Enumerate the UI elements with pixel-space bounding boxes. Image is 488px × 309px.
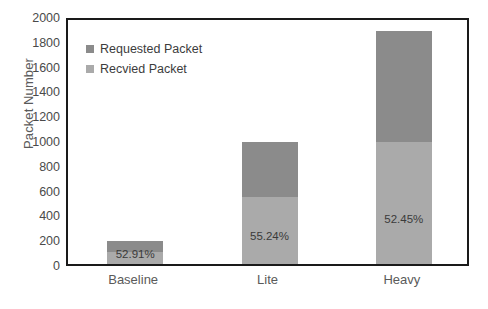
y-axis-tick-label: 600 [18, 185, 60, 199]
y-axis-tick-label: 1000 [18, 135, 60, 149]
y-axis-tick-label: 1800 [18, 36, 60, 50]
bar-data-label: 52.45% [376, 213, 432, 225]
bar-data-label: 52.91% [107, 248, 163, 260]
y-axis-tick-label: 800 [18, 160, 60, 174]
x-axis-labels: BaselineLiteHeavy [66, 272, 469, 296]
x-axis-label: Lite [257, 272, 278, 287]
y-axis-tick-label: 1400 [18, 85, 60, 99]
y-axis-ticks: 2000180016001400120010008006004002000 [18, 18, 60, 266]
bar-segment-received[interactable] [376, 142, 432, 264]
bars-layer: 52.91%55.24%52.45% [68, 20, 467, 264]
bar-group[interactable]: 52.45% [376, 31, 432, 264]
x-axis-label: Heavy [383, 272, 420, 287]
stacked-bar-chart: Packet Number 20001800160014001200100080… [0, 0, 488, 309]
plot-area: Requested PacketRecvied Packet 52.91%55.… [66, 18, 469, 266]
bar-group[interactable]: 55.24% [242, 142, 298, 264]
y-axis-tick-label: 1600 [18, 61, 60, 75]
x-axis-label: Baseline [108, 272, 158, 287]
bar-data-label: 55.24% [242, 230, 298, 242]
y-axis-tick-label: 1200 [18, 110, 60, 124]
y-axis-tick-label: 0 [18, 259, 60, 273]
y-axis-tick-label: 2000 [18, 11, 60, 25]
y-axis-tick-label: 200 [18, 234, 60, 248]
y-axis-tick-label: 400 [18, 209, 60, 223]
bar-group[interactable]: 52.91% [107, 241, 163, 264]
